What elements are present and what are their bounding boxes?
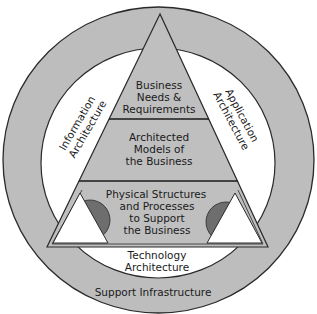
pyramid-top-line1: Business bbox=[136, 79, 182, 91]
pyramid-middle-label: Architected Models of the Business bbox=[126, 131, 193, 167]
pyramid-middle-line1: Architected bbox=[129, 131, 189, 143]
pyramid-bottom-line3: to Support bbox=[129, 212, 184, 224]
technology-line2: Architecture bbox=[125, 261, 189, 273]
technology-line1: Technology bbox=[127, 249, 187, 261]
pyramid-top-line3: Requirements bbox=[123, 103, 196, 115]
pyramid-middle-line2: Models of bbox=[134, 143, 185, 155]
pyramid-middle-line3: the Business bbox=[126, 155, 193, 167]
pyramid-bottom-line1: Physical Structures bbox=[106, 188, 206, 200]
support-infrastructure-label: Support Infrastructure bbox=[95, 286, 212, 298]
architecture-diagram: Business Needs & Requirements Architecte… bbox=[0, 0, 317, 314]
pyramid-top-line2: Needs & bbox=[137, 91, 181, 103]
pyramid-bottom-line2: and Processes bbox=[120, 200, 195, 212]
technology-architecture-label: Technology Architecture bbox=[125, 249, 189, 273]
pyramid-bottom-line4: the Business bbox=[124, 224, 191, 236]
